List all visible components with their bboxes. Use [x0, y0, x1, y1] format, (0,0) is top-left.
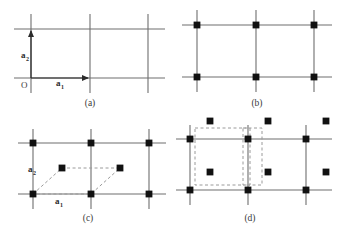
lattice-point [194, 74, 201, 81]
vector-a2-subscript: 2 [26, 56, 29, 62]
vector-a1-subscript: 1 [61, 84, 64, 90]
lattice-point-centered [323, 169, 330, 176]
lattice-point-centered [207, 169, 214, 176]
panel-a-caption: (a) [85, 98, 96, 109]
vector-a2-subscript: 2 [33, 170, 36, 176]
lattice-point [194, 22, 201, 29]
origin-label: O [21, 80, 28, 90]
panel-c: a 2 a 1 (c) [18, 129, 166, 224]
lattice-point-centered [265, 169, 272, 176]
lattice-point [146, 140, 153, 147]
lattice-point [88, 140, 95, 147]
lattice-point [311, 74, 318, 81]
lattice-point [30, 140, 37, 147]
conventional-cell-rect [195, 128, 250, 185]
lattice-point-centered [117, 165, 124, 172]
panel-d: (d) [176, 118, 332, 224]
lattice-point-centered [265, 118, 272, 125]
lattice-point [187, 136, 194, 143]
lattice-point [245, 136, 252, 143]
lattice-point-centered [323, 118, 330, 125]
lattice-figure: a 1 a 2 O (a) (b) [0, 0, 346, 234]
vector-a1-subscript: 1 [60, 202, 63, 208]
panel-d-caption: (d) [244, 213, 255, 224]
lattice-point [253, 74, 260, 81]
lattice-point [253, 22, 260, 29]
panel-d-lattice-points [187, 118, 330, 194]
lattice-point-centered [59, 165, 66, 172]
figure-canvas: a 1 a 2 O (a) (b) [0, 0, 346, 234]
lattice-point [88, 191, 95, 198]
primitive-cell-parallelogram [33, 168, 120, 194]
panel-b-caption: (b) [251, 98, 262, 109]
lattice-point [30, 191, 37, 198]
panel-c-caption: (c) [83, 213, 94, 224]
lattice-point [146, 191, 153, 198]
lattice-point [303, 187, 310, 194]
lattice-point [187, 187, 194, 194]
panel-a-gridlines [14, 14, 165, 93]
lattice-point [303, 136, 310, 143]
lattice-point [311, 22, 318, 29]
lattice-point [245, 187, 252, 194]
panel-b: (b) [182, 10, 332, 109]
panel-a: a 1 a 2 O (a) [14, 14, 165, 109]
lattice-point-centered [207, 118, 214, 125]
